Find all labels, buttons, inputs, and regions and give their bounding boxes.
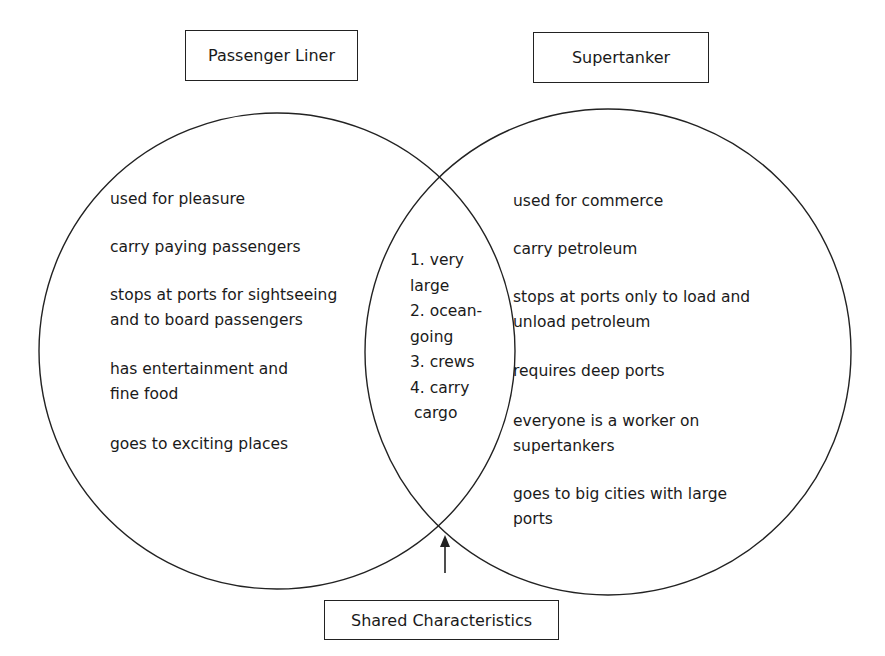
right-set-title: Supertanker — [533, 32, 709, 83]
intersection-list: 1. very large 2. ocean- going 3. crews 4… — [410, 248, 482, 427]
right-item-3-line-2: unload petroleum — [513, 312, 750, 333]
right-item-2: carry petroleum — [513, 239, 637, 260]
right-item-3-line-1: stops at ports only to load and — [513, 287, 750, 308]
right-item-6-line-1: goes to big cities with large — [513, 484, 727, 505]
left-item-4: has entertainment and fine food — [110, 359, 288, 405]
left-item-4-line-2: fine food — [110, 384, 288, 405]
shared-line-1: 1. very — [410, 248, 482, 274]
left-item-4-line-1: has entertainment and — [110, 359, 288, 380]
right-item-6-line-2: ports — [513, 509, 727, 530]
shared-line-2: large — [410, 274, 482, 300]
left-item-5: goes to exciting places — [110, 434, 288, 455]
intersection-title: Shared Characteristics — [324, 600, 559, 640]
right-item-5: everyone is a worker on supertankers — [513, 411, 699, 457]
left-set-title: Passenger Liner — [185, 30, 358, 81]
left-item-3-line-2: and to board passengers — [110, 310, 337, 331]
left-item-3: stops at ports for sightseeing and to bo… — [110, 285, 337, 331]
left-item-1: used for pleasure — [110, 189, 245, 210]
shared-line-3: 2. ocean- — [410, 299, 482, 325]
right-item-4: requires deep ports — [513, 361, 665, 382]
shared-line-5: 3. crews — [410, 350, 482, 376]
right-item-5-line-1: everyone is a worker on — [513, 411, 699, 432]
right-item-6: goes to big cities with large ports — [513, 484, 727, 530]
left-item-3-line-1: stops at ports for sightseeing — [110, 285, 337, 306]
arrow-up-icon — [440, 535, 450, 573]
right-item-3: stops at ports only to load and unload p… — [513, 287, 750, 333]
shared-line-6: 4. carry — [410, 376, 482, 402]
right-item-5-line-2: supertankers — [513, 436, 699, 457]
right-item-1: used for commerce — [513, 191, 663, 212]
left-item-2: carry paying passengers — [110, 237, 301, 258]
shared-line-7: cargo — [410, 401, 482, 427]
shared-line-4: going — [410, 325, 482, 351]
